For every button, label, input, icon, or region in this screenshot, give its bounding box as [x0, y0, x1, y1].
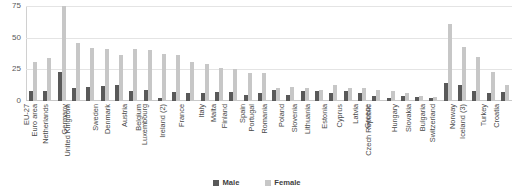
- bar-group[interactable]: [126, 6, 140, 101]
- bar-female[interactable]: [476, 57, 480, 101]
- bar-group[interactable]: [183, 6, 197, 101]
- x-axis-tick-label: Lithuania: [304, 104, 312, 134]
- bar-female[interactable]: [133, 49, 137, 101]
- bar-female[interactable]: [233, 69, 237, 101]
- bar-group[interactable]: [498, 6, 512, 101]
- bar-group[interactable]: [198, 6, 212, 101]
- x-axis-tick-label: Spain: [238, 104, 246, 123]
- bar-female[interactable]: [47, 58, 51, 101]
- bar-group[interactable]: [369, 6, 383, 101]
- bar-female[interactable]: [319, 90, 323, 101]
- bar-group[interactable]: [469, 6, 483, 101]
- bar-group[interactable]: [312, 6, 326, 101]
- x-axis-label-cell: Croatia: [498, 102, 512, 166]
- bar-group[interactable]: [412, 6, 426, 101]
- x-axis-tick-label: Poland: [279, 104, 287, 127]
- bar-female[interactable]: [290, 87, 294, 101]
- x-axis-labels: EU-27Euro areaNetherlandsGermanyUnited K…: [26, 102, 512, 166]
- legend-item[interactable]: Male: [213, 179, 239, 187]
- y-axis-tick-label: 25: [12, 65, 21, 73]
- bar-female[interactable]: [219, 68, 223, 101]
- y-axis-tick-label: 0: [17, 97, 21, 105]
- bar-female[interactable]: [276, 88, 280, 101]
- x-axis-tick-label: France: [179, 104, 187, 127]
- bar-female[interactable]: [148, 50, 152, 101]
- bar-female[interactable]: [348, 88, 352, 101]
- x-axis-tick-label: United Kingdom: [64, 104, 72, 157]
- bar-female[interactable]: [462, 47, 466, 101]
- female-swatch-icon: [265, 180, 271, 186]
- bar-female[interactable]: [391, 91, 395, 101]
- x-axis-tick-label: Euro area: [31, 104, 39, 136]
- bar-group[interactable]: [97, 6, 111, 101]
- bar-group[interactable]: [212, 6, 226, 101]
- male-swatch-icon: [213, 180, 219, 186]
- bar-female[interactable]: [248, 73, 252, 101]
- bar-female[interactable]: [433, 97, 437, 101]
- bar-female[interactable]: [90, 48, 94, 101]
- bar-group[interactable]: [269, 6, 283, 101]
- plot-area: [26, 6, 512, 101]
- bar-group[interactable]: [341, 6, 355, 101]
- bar-group[interactable]: [69, 6, 83, 101]
- bar-female[interactable]: [405, 93, 409, 101]
- bar-group[interactable]: [398, 6, 412, 101]
- bar-female[interactable]: [162, 54, 166, 101]
- bar-group[interactable]: [140, 6, 154, 101]
- x-axis-tick-label: Estonia: [321, 104, 329, 129]
- x-axis-tick-label: Denmark: [104, 104, 112, 134]
- bar-group[interactable]: [83, 6, 97, 101]
- legend-item[interactable]: Female: [265, 179, 300, 187]
- x-axis-tick-label: Slovakia: [405, 104, 413, 132]
- bar-female[interactable]: [262, 73, 266, 101]
- bar-female[interactable]: [62, 6, 66, 101]
- bar-group[interactable]: [55, 6, 69, 101]
- bar-female[interactable]: [491, 72, 495, 101]
- x-axis-tick-label: Netherlands: [42, 104, 50, 144]
- bar-female[interactable]: [105, 49, 109, 101]
- legend-label: Male: [222, 179, 239, 187]
- bar-female[interactable]: [376, 90, 380, 101]
- bar-group[interactable]: [155, 6, 169, 101]
- bar-group[interactable]: [40, 6, 54, 101]
- bar-female[interactable]: [305, 88, 309, 101]
- bar-female[interactable]: [76, 43, 80, 101]
- bar-group[interactable]: [426, 6, 440, 101]
- x-axis-tick-label: Sweden: [91, 104, 99, 131]
- bar-female[interactable]: [505, 85, 509, 101]
- x-axis-tick-label: Austria: [122, 104, 130, 127]
- bar-group[interactable]: [255, 6, 269, 101]
- x-axis-tick-label: Romania: [261, 104, 269, 134]
- x-axis-tick-label: Hungary: [391, 104, 399, 132]
- x-axis-tick-label: Norway: [450, 104, 458, 129]
- bar-group[interactable]: [383, 6, 397, 101]
- x-axis-tick-label: Portugal: [248, 104, 256, 132]
- bar-female[interactable]: [190, 62, 194, 101]
- bar-group[interactable]: [298, 6, 312, 101]
- bar-female[interactable]: [176, 55, 180, 101]
- bar-group[interactable]: [226, 6, 240, 101]
- bar-group[interactable]: [283, 6, 297, 101]
- bar-group[interactable]: [455, 6, 469, 101]
- bar-group[interactable]: [240, 6, 254, 101]
- x-axis-tick-label: Turkey: [479, 104, 487, 126]
- x-axis-tick-label: Italy: [198, 104, 206, 118]
- bar-female[interactable]: [205, 64, 209, 101]
- bar-female[interactable]: [119, 55, 123, 101]
- bar-female[interactable]: [362, 88, 366, 101]
- bar-group[interactable]: [441, 6, 455, 101]
- x-axis-tick-label: Cyprus: [336, 104, 344, 127]
- x-axis-tick-label: Czech Republic: [365, 104, 373, 156]
- bar-group[interactable]: [484, 6, 498, 101]
- x-axis-tick-label: Switzerland: [429, 104, 437, 142]
- bar-group[interactable]: [326, 6, 340, 101]
- bar-group[interactable]: [26, 6, 40, 101]
- bar-group[interactable]: [169, 6, 183, 101]
- bar-female[interactable]: [448, 24, 452, 101]
- bar-female[interactable]: [333, 85, 337, 101]
- bar-group[interactable]: [355, 6, 369, 101]
- bar-female[interactable]: [33, 62, 37, 101]
- x-axis-tick-label: Latvia: [352, 104, 360, 124]
- bar-group[interactable]: [112, 6, 126, 101]
- bar-female[interactable]: [419, 96, 423, 101]
